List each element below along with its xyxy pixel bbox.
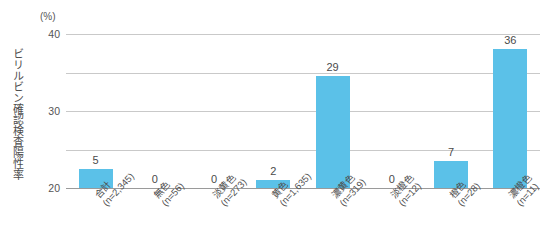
bars-group: 5002290736: [66, 34, 540, 188]
x-axis-label-slot: 無色(n=56): [125, 189, 184, 247]
bar-slot: 0: [185, 34, 244, 188]
bar-slot: 36: [481, 34, 540, 188]
x-axis-label-slot: 淡黄色(n=273): [185, 189, 244, 247]
bar-value-label: 2: [270, 165, 276, 177]
bar-slot: 0: [125, 34, 184, 188]
x-axis-label-slot: 黄色(n=1,635): [244, 189, 303, 247]
bar: [493, 49, 527, 188]
bar-slot: 0: [362, 34, 421, 188]
bilirubin-positive-rate-bar-chart: (%) ビリルビン確認検査陽性率 403020100 5002290736 合計…: [0, 0, 554, 248]
x-axis-label-slot: 濃橙色(n=11): [481, 189, 540, 247]
x-axis-label-slot: 合計(n=2,345): [66, 189, 125, 247]
y-axis-tick-40: 40: [48, 28, 60, 40]
bar-value-label: 0: [152, 173, 158, 185]
y-axis-title: ビリルビン確認検査陽性率: [8, 34, 24, 194]
bar-value-label: 7: [448, 146, 454, 158]
x-axis-labels-group: 合計(n=2,345)無色(n=56)淡黄色(n=273)黄色(n=1,635)…: [66, 189, 540, 247]
bar-value-label: 0: [389, 173, 395, 185]
y-axis-unit-label: (%): [40, 11, 56, 22]
bar-slot: 7: [422, 34, 481, 188]
x-axis-label-slot: 橙色(n=28): [422, 189, 481, 247]
x-axis-label-slot: 濃黄色(n=319): [303, 189, 362, 247]
x-axis-label-slot: 淡橙色(n=12): [362, 189, 421, 247]
bar-value-label: 5: [93, 154, 99, 166]
y-axis-tick-20: 20: [48, 182, 60, 194]
bar: [316, 76, 350, 188]
bar-slot: 29: [303, 34, 362, 188]
plot-area: 403020100 5002290736: [66, 34, 540, 188]
bar-value-label: 36: [504, 34, 516, 46]
bar-value-label: 0: [211, 173, 217, 185]
y-axis-tick-30: 30: [48, 105, 60, 117]
bar-value-label: 29: [327, 61, 339, 73]
